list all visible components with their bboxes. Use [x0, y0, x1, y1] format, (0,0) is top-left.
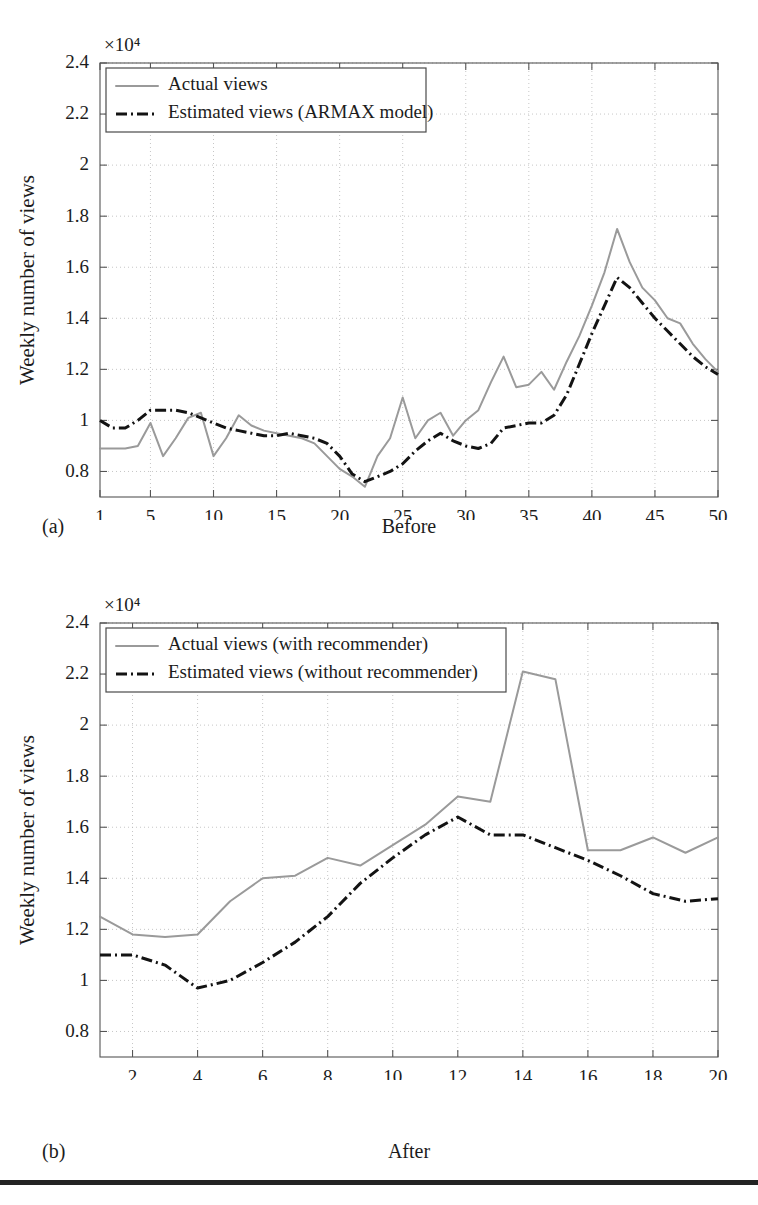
- y-tick-label: 1.8: [65, 205, 89, 226]
- y-tick-label: 1.2: [65, 918, 89, 939]
- y-tick-label: 1.2: [65, 358, 89, 379]
- y-tick-label: 1.8: [65, 765, 89, 786]
- caption-text-b: After: [0, 1140, 758, 1163]
- x-tick-label: 18: [643, 1066, 662, 1080]
- y-axis-exponent-label: ×10⁴: [104, 34, 141, 55]
- y-tick-label: 2.4: [65, 51, 89, 72]
- chart-before: 0.811.21.41.61.822.22.415101520253035404…: [0, 0, 758, 520]
- y-tick-label: 1: [80, 409, 90, 430]
- legend-label: Actual views: [168, 73, 268, 94]
- x-tick-label: 2: [128, 1066, 138, 1080]
- legend-label: Estimated views (ARMAX model): [168, 101, 433, 123]
- x-tick-label: 14: [513, 1066, 533, 1080]
- y-tick-label: 0.8: [65, 460, 89, 481]
- x-tick-label: 6: [258, 1066, 268, 1080]
- caption-before: (a) Before: [0, 515, 758, 541]
- caption-text-a: Before: [0, 515, 758, 538]
- y-axis-title: Weekly number of views: [15, 175, 39, 385]
- series-line-estimated: [100, 277, 718, 481]
- x-tick-label: 20: [709, 1066, 728, 1080]
- x-tick-label: 8: [323, 1066, 333, 1080]
- y-tick-label: 1.4: [65, 307, 89, 328]
- series-line-actual: [100, 672, 718, 938]
- figure-panel-before: 0.811.21.41.61.822.22.415101520253035404…: [0, 0, 758, 580]
- figure-panel-after: 0.811.21.41.61.822.22.42468101214161820×…: [0, 560, 758, 1150]
- legend-label: Actual views (with recommender): [168, 633, 428, 655]
- caption-after: (b) After: [0, 1140, 758, 1166]
- y-tick-label: 1.6: [65, 256, 89, 277]
- y-tick-label: 2.4: [65, 611, 89, 632]
- legend-label: Estimated views (without recommender): [168, 661, 478, 683]
- y-tick-label: 1.4: [65, 867, 89, 888]
- series-line-estimated: [100, 817, 718, 988]
- horizontal-rule: [0, 1180, 758, 1185]
- x-tick-label: 4: [193, 1066, 203, 1080]
- y-tick-label: 1: [80, 969, 90, 990]
- y-axis-title: Weekly number of views: [15, 735, 39, 945]
- page-caption-sliver: [0, 1196, 758, 1205]
- y-axis-exponent-label: ×10⁴: [104, 594, 141, 615]
- x-tick-label: 16: [578, 1066, 597, 1080]
- plot-area-before: 0.811.21.41.61.822.22.415101520253035404…: [0, 0, 758, 520]
- y-tick-label: 0.8: [65, 1020, 89, 1041]
- y-tick-label: 2: [80, 713, 90, 734]
- chart-after: 0.811.21.41.61.822.22.42468101214161820×…: [0, 560, 758, 1080]
- y-tick-label: 2: [80, 153, 90, 174]
- x-tick-label: 12: [448, 1066, 467, 1080]
- y-tick-label: 1.6: [65, 816, 89, 837]
- plot-area-after: 0.811.21.41.61.822.22.42468101214161820×…: [0, 560, 758, 1080]
- y-tick-label: 2.2: [65, 102, 89, 123]
- x-tick-label: 10: [383, 1066, 402, 1080]
- y-tick-label: 2.2: [65, 662, 89, 683]
